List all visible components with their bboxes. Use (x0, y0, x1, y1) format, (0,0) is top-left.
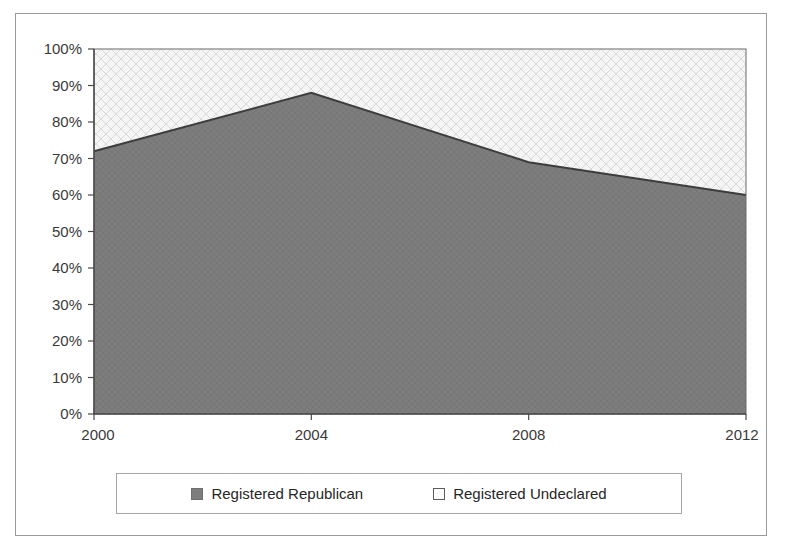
x-axis-tick-label: 2012 (725, 426, 758, 443)
legend-item-registered-undeclared[interactable]: Registered Undeclared (433, 485, 606, 502)
y-axis-tick-label: 90% (52, 77, 82, 94)
filled-square-icon (191, 488, 203, 500)
x-axis: 2000200420082012 (81, 414, 758, 443)
chart-legend: Registered Republican Registered Undecla… (116, 473, 682, 514)
y-axis-tick-label: 60% (52, 186, 82, 203)
y-axis-tick-label: 50% (52, 223, 82, 240)
x-axis-tick-label: 2008 (512, 426, 545, 443)
y-axis-tick-label: 100% (44, 40, 82, 57)
y-axis: 0%10%20%30%40%50%60%70%80%90%100% (44, 40, 94, 422)
x-axis-tick-label: 2004 (295, 426, 328, 443)
chart-frame: 0%10%20%30%40%50%60%70%80%90%100% 200020… (15, 13, 767, 536)
area-chart-svg: 0%10%20%30%40%50%60%70%80%90%100% 200020… (16, 14, 768, 537)
y-axis-tick-label: 40% (52, 259, 82, 276)
legend-item-registered-republican[interactable]: Registered Republican (191, 485, 363, 502)
legend-item-label: Registered Undeclared (453, 485, 606, 502)
y-axis-tick-label: 30% (52, 296, 82, 313)
y-axis-tick-label: 20% (52, 332, 82, 349)
legend-item-label: Registered Republican (211, 485, 363, 502)
plot-area: 0%10%20%30%40%50%60%70%80%90%100% 200020… (16, 14, 768, 537)
x-axis-tick-label: 2000 (81, 426, 114, 443)
y-axis-tick-label: 80% (52, 113, 82, 130)
y-axis-tick-label: 0% (60, 405, 82, 422)
y-axis-tick-label: 70% (52, 150, 82, 167)
y-axis-tick-label: 10% (52, 369, 82, 386)
hollow-square-icon (433, 488, 445, 500)
